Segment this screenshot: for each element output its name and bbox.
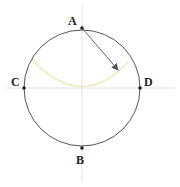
point-a xyxy=(80,26,84,30)
label-c: C xyxy=(11,75,20,89)
point-b xyxy=(80,146,84,150)
point-d xyxy=(138,86,142,90)
circle-diagram: A B C D xyxy=(0,0,180,187)
label-b: B xyxy=(76,153,84,167)
label-d: D xyxy=(144,75,153,89)
label-a: A xyxy=(68,14,77,28)
yellow-arc xyxy=(32,60,128,87)
arrow-vector xyxy=(82,28,118,70)
point-c xyxy=(22,86,26,90)
